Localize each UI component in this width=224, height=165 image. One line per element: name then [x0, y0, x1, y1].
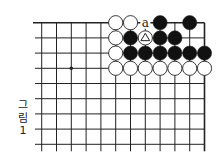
- caption-char-1: 그: [16, 100, 30, 113]
- black-stone: [123, 46, 137, 60]
- star-points: [70, 67, 74, 71]
- black-stone: [153, 31, 167, 45]
- black-stone: [123, 31, 137, 45]
- white-stone: [197, 61, 211, 75]
- black-stone: [183, 16, 197, 30]
- point-label: a: [142, 16, 149, 30]
- black-stone: [168, 31, 182, 45]
- caption-char-3: 1: [16, 125, 30, 138]
- white-stone: [123, 16, 137, 30]
- white-stone: [153, 61, 167, 75]
- white-stone: [109, 16, 123, 30]
- white-stone: [109, 61, 123, 75]
- point-labels: a: [140, 16, 150, 30]
- white-stone: [123, 61, 137, 75]
- white-stone: [109, 46, 123, 60]
- figure-caption: 그 림 1: [16, 100, 30, 138]
- white-stone: [168, 61, 182, 75]
- black-stone: [168, 46, 182, 60]
- black-stone: [138, 46, 152, 60]
- black-stone: [183, 46, 197, 60]
- black-stone: [153, 16, 167, 30]
- white-stone: [138, 61, 152, 75]
- go-board: a: [0, 0, 224, 165]
- white-stone: [183, 61, 197, 75]
- star-point-icon: [70, 67, 74, 71]
- black-stone: [153, 46, 167, 60]
- white-stone: [109, 31, 123, 45]
- black-stone: [197, 46, 211, 60]
